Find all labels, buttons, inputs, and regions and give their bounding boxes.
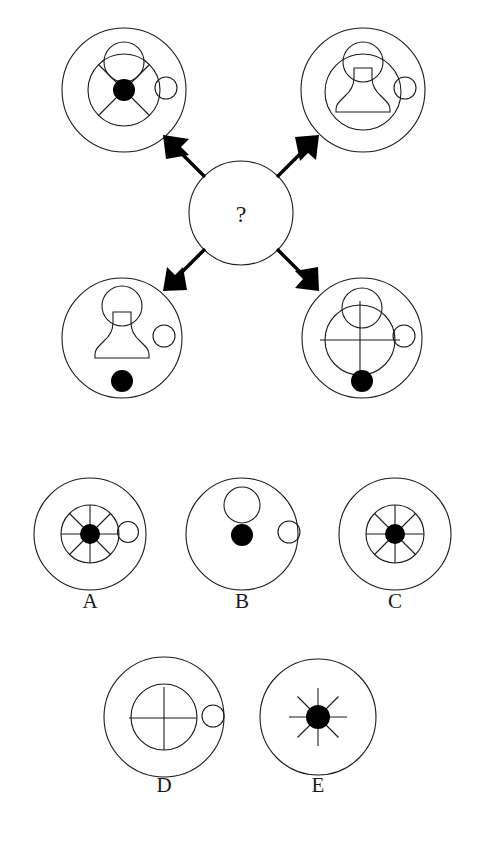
small-circle-right-edge xyxy=(278,521,300,543)
option-label-A: A xyxy=(82,589,98,613)
matrix-cell-top-right[interactable] xyxy=(301,28,425,152)
small-circle-upper xyxy=(224,487,260,523)
arrow-to-top-right xyxy=(277,135,319,177)
medium-circle xyxy=(325,54,401,130)
small-circle-top-overlap xyxy=(102,286,142,326)
black-dot-bottom xyxy=(351,370,373,392)
option-B[interactable]: B xyxy=(186,478,300,613)
question-mark-label: ? xyxy=(236,201,247,227)
pawn-anvil-shape xyxy=(336,68,390,112)
small-circle-top-overlap xyxy=(343,42,383,82)
option-label-D: D xyxy=(156,773,171,797)
option-C[interactable]: C xyxy=(339,478,451,613)
small-circle-right-edge xyxy=(393,325,415,347)
matrix-cell-top-left[interactable] xyxy=(62,28,186,152)
matrix-cell-bottom-left[interactable] xyxy=(62,278,182,398)
pawn-anvil-shape xyxy=(95,312,149,358)
small-circle-right-edge xyxy=(202,705,224,727)
option-label-E: E xyxy=(312,773,325,797)
small-circle-right-edge xyxy=(155,77,177,99)
black-dot-bottom xyxy=(111,370,133,392)
arrow-to-bottom-left xyxy=(163,249,205,291)
small-circle-right-edge xyxy=(394,77,416,99)
small-circle-right-edge xyxy=(118,522,139,543)
black-dot-center xyxy=(231,524,253,546)
outer-circle xyxy=(301,28,425,152)
small-circle-top-overlap xyxy=(104,42,144,82)
option-A[interactable]: A xyxy=(34,478,146,613)
matrix-cell-bottom-right[interactable] xyxy=(302,278,422,398)
option-label-B: B xyxy=(235,589,249,613)
option-label-C: C xyxy=(388,589,402,613)
small-circle-right-edge xyxy=(153,325,175,347)
option-E[interactable]: E xyxy=(260,659,376,797)
arrow-to-bottom-right xyxy=(277,249,319,291)
black-center-dot xyxy=(80,524,100,544)
analogy-puzzle-svg: ? A xyxy=(0,0,483,854)
black-center-dot xyxy=(306,705,330,729)
small-circle-top-overlap xyxy=(342,288,382,328)
black-center-dot xyxy=(385,524,405,544)
arrow-to-top-left xyxy=(163,135,205,177)
option-D[interactable]: D xyxy=(104,657,224,797)
black-center-dot xyxy=(113,79,135,101)
puzzle-canvas: ? A xyxy=(0,0,483,854)
